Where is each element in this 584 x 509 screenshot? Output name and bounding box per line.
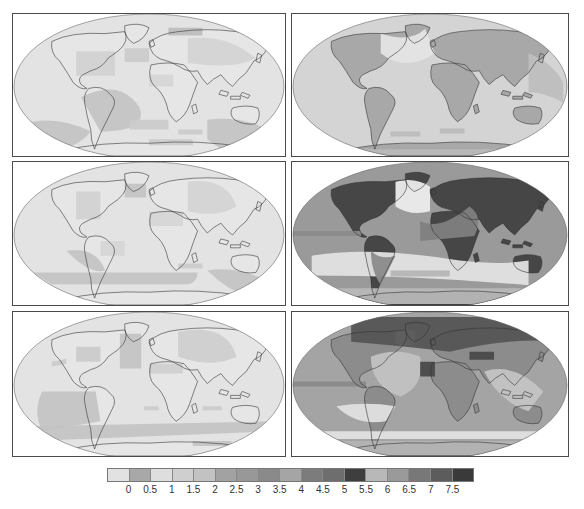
data-contour-region [178, 130, 202, 135]
legend-tick-label: 1.5 [186, 484, 200, 495]
data-contour-region [391, 270, 450, 276]
map-panel-r1c2 [291, 13, 569, 157]
map-panel-r2c2 [291, 161, 569, 306]
legend-swatch [431, 469, 453, 481]
legend-swatch [409, 469, 431, 481]
data-contour-region [302, 431, 568, 439]
world-map-projection [292, 312, 568, 456]
data-contour-region [149, 75, 173, 87]
legend-swatch [237, 469, 259, 481]
legend-swatch [151, 469, 173, 481]
legend-swatch [130, 469, 152, 481]
legend-tick-label: 6 [385, 484, 391, 495]
color-scale-legend [107, 468, 474, 482]
legend-swatch [302, 469, 324, 481]
data-contour-region [32, 272, 197, 284]
legend-swatch [108, 469, 130, 481]
world-map-projection [292, 14, 568, 156]
legend-swatch [453, 469, 474, 481]
data-contour-region [76, 347, 100, 362]
legend-swatch [323, 469, 345, 481]
data-contour-region [144, 406, 159, 410]
legend-tick-label: 2 [212, 484, 218, 495]
legend-tick-label: 0 [126, 484, 132, 495]
data-contour-region [292, 231, 361, 236]
legend-tick-label: 4.5 [316, 484, 330, 495]
data-contour-region [420, 362, 435, 377]
world-map-projection [13, 162, 285, 305]
data-contour-region [207, 119, 275, 156]
legend-tick-labels: 00.511.522.533.544.555.566.577.5 [107, 484, 474, 498]
data-contour-region [76, 51, 115, 75]
legend-tick-label: 3.5 [273, 484, 287, 495]
data-contour-region [149, 211, 183, 226]
data-contour-region [469, 352, 494, 360]
legend-tick-label: 5 [342, 484, 348, 495]
legend-tick-label: 7.5 [445, 484, 459, 495]
legend-tick-label: 7 [428, 484, 434, 495]
data-contour-region [149, 364, 183, 374]
world-map-projection [292, 162, 568, 305]
legend-swatch [388, 469, 410, 481]
data-contour-region [440, 129, 465, 134]
legend-swatch [259, 469, 281, 481]
legend-tick-label: 1 [169, 484, 175, 495]
data-contour-region [391, 132, 421, 137]
legend-swatch [345, 469, 367, 481]
data-contour-region [120, 334, 141, 369]
legend-swatch [173, 469, 195, 481]
legend-tick-label: 2.5 [230, 484, 244, 495]
data-contour-region [292, 382, 366, 387]
data-contour-region [100, 241, 124, 256]
map-panel-r3c2 [291, 311, 569, 457]
data-contour-region [168, 28, 202, 36]
map-panel-r3c1 [12, 311, 286, 457]
legend-swatch [216, 469, 238, 481]
data-contour-region [292, 288, 568, 304]
data-contour-region [130, 120, 169, 130]
legend-swatch [280, 469, 302, 481]
world-map-projection [13, 312, 285, 456]
legend-tick-label: 0.5 [143, 484, 157, 495]
data-contour-region [125, 48, 149, 62]
data-contour-region [76, 192, 100, 220]
legend-swatch [366, 469, 388, 481]
legend-tick-label: 6.5 [402, 484, 416, 495]
legend-swatch [194, 469, 216, 481]
legend-tick-label: 5.5 [359, 484, 373, 495]
legend-tick-label: 3 [255, 484, 261, 495]
data-contour-region [292, 149, 568, 155]
legend-tick-label: 4 [299, 484, 305, 495]
map-panel-r1c1 [12, 13, 286, 157]
map-panel-r2c1 [12, 161, 286, 306]
data-contour-region [202, 406, 221, 410]
world-map-projection [13, 14, 285, 156]
